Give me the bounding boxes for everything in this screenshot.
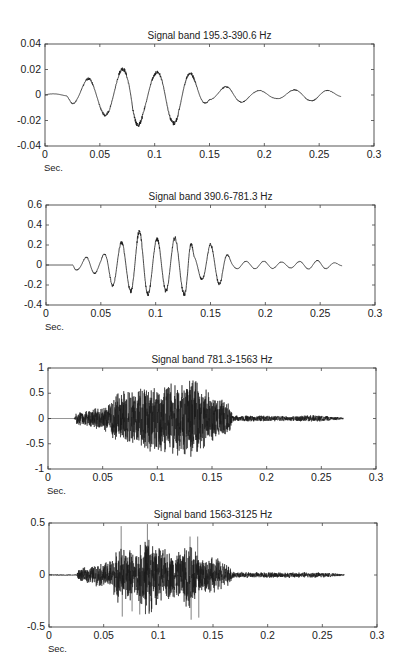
signal-waveform bbox=[49, 524, 344, 620]
plot-area bbox=[0, 0, 406, 669]
x-tick-label: 0.15 bbox=[203, 629, 223, 641]
x-tick-label: 0.1 bbox=[151, 629, 166, 641]
x-tick-label: 0.25 bbox=[312, 629, 332, 641]
x-tick-label: 0.3 bbox=[370, 629, 385, 641]
x-tick-label: 0.05 bbox=[93, 629, 113, 641]
x-tick-label: 0 bbox=[46, 629, 52, 641]
y-tick-label: -0.5 bbox=[5, 620, 45, 632]
x-tick-label: 0.2 bbox=[260, 629, 275, 641]
x-axis-label: Sec. bbox=[48, 643, 67, 654]
y-tick-label: 0 bbox=[5, 568, 45, 580]
y-tick-label: 0.5 bbox=[5, 516, 45, 528]
